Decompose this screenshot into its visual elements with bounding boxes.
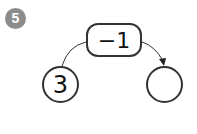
start-value-circle: 3	[42, 66, 79, 103]
operation-box: −1	[86, 23, 142, 57]
arrow-head-icon	[159, 58, 166, 66]
answer-circle[interactable]	[146, 66, 183, 103]
left-connector-line	[62, 42, 86, 66]
right-arrow-line	[142, 42, 163, 61]
